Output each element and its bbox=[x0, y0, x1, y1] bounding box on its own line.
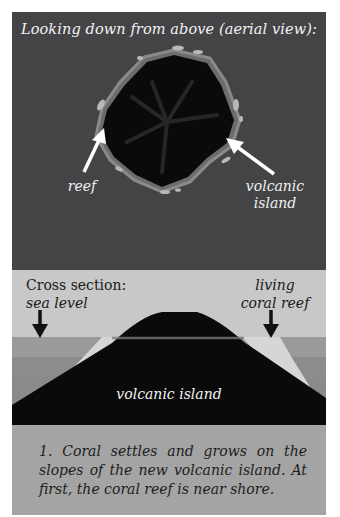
cross-section-title: Cross section: bbox=[26, 277, 126, 293]
caption-text: 1. Coral settles and grows on the slopes… bbox=[39, 442, 307, 499]
living-reef-label-line1: living bbox=[240, 276, 310, 294]
diagram-frame: Looking down from above (aerial view): bbox=[12, 12, 326, 515]
sea-level-label: sea level bbox=[26, 294, 88, 312]
volcanic-island-label-line1: volcanic bbox=[240, 178, 310, 195]
living-reef-label-line2: coral reef bbox=[240, 294, 310, 312]
reef-label: reef bbox=[62, 178, 102, 195]
aerial-island-illustration bbox=[12, 12, 326, 270]
cross-section-panel: Cross section: sea level living coral re… bbox=[12, 270, 326, 425]
caption-panel: 1. Coral settles and grows on the slopes… bbox=[12, 425, 326, 515]
island-arrow-icon bbox=[226, 138, 274, 174]
aerial-view-panel: Looking down from above (aerial view): bbox=[12, 12, 326, 270]
volcanic-island-cross-label: volcanic island bbox=[12, 386, 326, 402]
aerial-view-title: Looking down from above (aerial view): bbox=[12, 21, 326, 37]
volcanic-island-label-line2: island bbox=[240, 195, 310, 212]
